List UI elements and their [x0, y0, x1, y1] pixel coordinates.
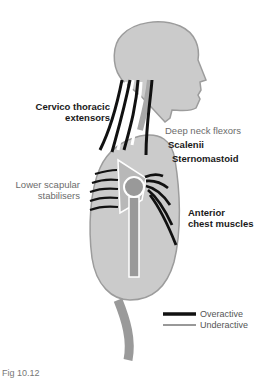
shoulder-joint [124, 177, 144, 197]
label-line: Lower scapular [5, 179, 80, 190]
label-line: extensors [20, 112, 110, 123]
label-scalenii: Scalenii [168, 139, 204, 150]
label-cervico-thoracic-extensors: Cervico thoracic extensors [20, 101, 110, 123]
legend-overactive-label: Overactive [200, 309, 243, 319]
humerus [129, 197, 139, 277]
label-lower-scapular-stabilisers: Lower scapular stabilisers [5, 179, 80, 201]
label-anterior-chest-muscles: Anterior chest muscles [188, 207, 253, 229]
label-line: Anterior [188, 207, 253, 218]
spine [118, 300, 129, 360]
label-line: Cervico thoracic [20, 101, 110, 112]
figure-caption: Fig 10.12 [2, 368, 40, 378]
legend-underactive-label: Underactive [200, 320, 248, 330]
label-line: stabilisers [5, 190, 80, 201]
label-line: chest muscles [188, 218, 253, 229]
label-sternomastoid: Sternomastoid [172, 153, 239, 164]
label-deep-neck-flexors: Deep neck flexors [165, 125, 241, 136]
